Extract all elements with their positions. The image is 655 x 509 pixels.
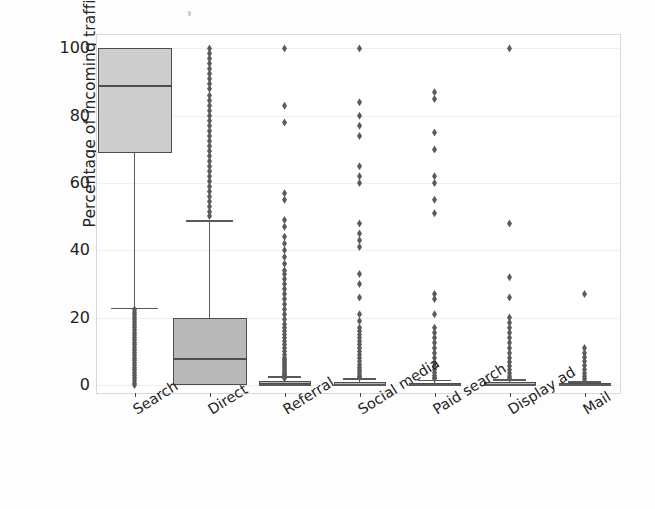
flat-box-baseline: [334, 384, 386, 386]
outlier-marker: [357, 293, 362, 301]
outlier-marker: [507, 44, 512, 52]
outlier-marker: [357, 179, 362, 187]
outlier-marker: [432, 145, 437, 153]
outlier-marker: [282, 223, 287, 231]
scan-artifact-speck: [188, 11, 191, 16]
plot-area: [96, 34, 621, 394]
outlier-marker: [207, 212, 212, 220]
outlier-marker: [432, 295, 437, 303]
outlier-marker: [357, 162, 362, 170]
outlier-marker: [357, 219, 362, 227]
whisker-cap-upper: [186, 220, 233, 222]
outlier-marker: [432, 196, 437, 204]
outlier-marker: [357, 44, 362, 52]
x-tick-mark: [135, 393, 136, 397]
outlier-marker: [432, 129, 437, 137]
median-line: [173, 358, 247, 360]
y-tick-label: 20: [44, 307, 90, 326]
outlier-marker: [357, 270, 362, 278]
outlier-marker: [582, 290, 587, 298]
outlier-marker: [507, 273, 512, 281]
y-tick-label: 100: [44, 38, 90, 57]
gridline: [97, 250, 620, 251]
y-tick-label: 80: [44, 105, 90, 124]
outlier-marker: [357, 112, 362, 120]
x-tick-mark: [585, 393, 586, 397]
x-tick-mark: [210, 393, 211, 397]
x-tick-mark: [360, 393, 361, 397]
outlier-marker: [282, 44, 287, 52]
x-tick-mark: [435, 393, 436, 397]
y-tick-label: 40: [44, 240, 90, 259]
x-tick-mark: [285, 393, 286, 397]
x-tick-mark: [510, 393, 511, 397]
box-plot-figure: Percentage of incoming traffic 020406080…: [0, 0, 655, 509]
outlier-marker: [432, 209, 437, 217]
outlier-marker: [432, 95, 437, 103]
flat-box-baseline: [259, 384, 311, 386]
outlier-marker: [507, 219, 512, 227]
y-tick-label: 0: [44, 374, 90, 393]
y-tick-label: 60: [44, 173, 90, 192]
outlier-marker: [357, 122, 362, 130]
box-search: [98, 48, 172, 152]
outlier-marker: [432, 179, 437, 187]
outlier-marker: [282, 196, 287, 204]
outlier-marker: [357, 132, 362, 140]
box-direct: [173, 318, 247, 385]
whisker-upper: [209, 220, 211, 318]
whisker-lower: [134, 153, 136, 308]
outlier-marker: [282, 102, 287, 110]
outlier-marker: [357, 98, 362, 106]
outlier-marker: [282, 118, 287, 126]
outlier-marker: [507, 293, 512, 301]
outlier-marker: [357, 280, 362, 288]
y-axis-tick-labels: 020406080100: [40, 0, 90, 509]
median-line: [98, 85, 172, 87]
